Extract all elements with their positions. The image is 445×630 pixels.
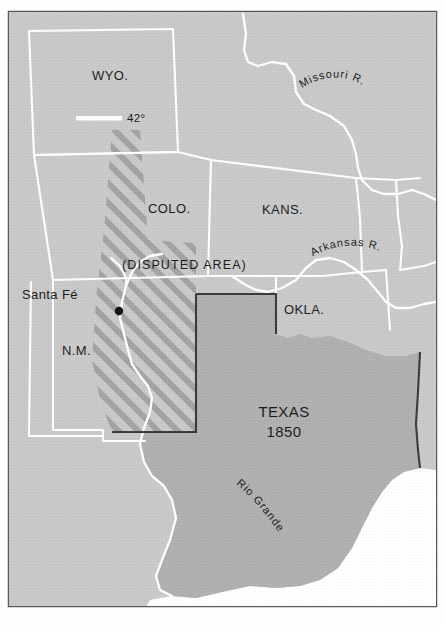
city-label-santa-fe: Santa Fé bbox=[22, 287, 78, 302]
map-canvas: WYO. COLO. KANS. N.M. OKLA. Santa Fé 42°… bbox=[0, 0, 445, 630]
state-label-oklahoma: OKLA. bbox=[284, 302, 324, 317]
state-label-wyoming: WYO. bbox=[92, 68, 128, 83]
map-root: WYO. COLO. KANS. N.M. OKLA. Santa Fé 42°… bbox=[0, 0, 445, 630]
santa-fe-dot bbox=[115, 307, 123, 315]
state-label-colorado: COLO. bbox=[148, 201, 190, 216]
halftone-texture bbox=[9, 12, 436, 606]
disputed-area-label: (DISPUTED AREA) bbox=[122, 258, 247, 272]
texas-claim-label-name: TEXAS bbox=[258, 403, 309, 420]
latitude-42-label: 42° bbox=[127, 112, 146, 124]
state-label-kansas: KANS. bbox=[262, 202, 303, 217]
state-label-new-mexico: N.M. bbox=[62, 343, 91, 358]
texas-claim-label-year: 1850 bbox=[267, 423, 302, 440]
